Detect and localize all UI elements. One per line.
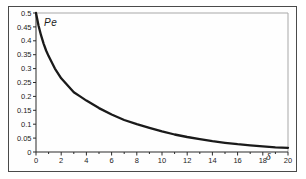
y-tick-label: 0.4: [21, 36, 31, 45]
y-axis-title: Pe: [44, 17, 57, 28]
series-curve-Pe: [36, 13, 288, 148]
y-tick-label: 0.3: [21, 64, 31, 73]
y-tick-label: 0.15: [17, 106, 32, 115]
x-tick-label: 8: [135, 156, 139, 165]
x-tick-label: 2: [59, 156, 63, 165]
y-tick-label: 0.25: [17, 78, 32, 87]
x-tick-label: 6: [110, 156, 114, 165]
x-tick-label: 4: [84, 156, 88, 165]
y-tick-label: 0.1: [21, 120, 31, 129]
y-tick-label: 0.35: [17, 50, 32, 59]
x-tick-label: 16: [233, 156, 241, 165]
x-tick-label: 20: [284, 156, 292, 165]
y-tick-label: 0: [27, 148, 31, 157]
x-tick-label: 14: [208, 156, 216, 165]
x-axis-title: δ: [266, 151, 271, 162]
y-tick-label: 0.5: [21, 9, 31, 18]
x-tick-label: 12: [183, 156, 191, 165]
y-tick-label: 0.2: [21, 92, 31, 101]
y-tick-label: 0.05: [17, 134, 32, 143]
page-background: 0246810121416182000.050.10.150.20.250.30…: [0, 0, 306, 179]
y-tick-label: 0.45: [17, 23, 32, 32]
x-tick-label: 10: [158, 156, 166, 165]
x-tick-label: 0: [34, 156, 38, 165]
